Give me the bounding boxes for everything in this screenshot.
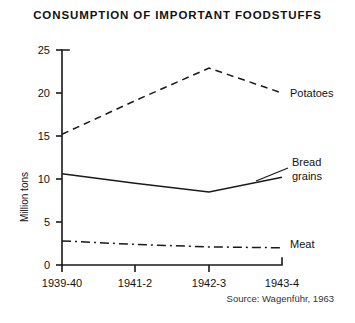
x-tick-label-1942-3: 1942-3: [192, 277, 226, 289]
x-axis-line: [62, 258, 282, 265]
source-note: Source: Wagenführ, 1963: [227, 293, 334, 304]
x-tick-label-1939-40: 1939-40: [42, 277, 82, 289]
x-tick-labels: 1939-40 1941-2 1942-3 1943-4: [42, 277, 299, 289]
y-axis-line: [62, 50, 69, 265]
y-tick-label-5: 5: [44, 216, 50, 228]
y-tick-label-0: 0: [44, 259, 50, 271]
y-tick-label-15: 15: [38, 130, 50, 142]
x-tick-label-1941-2: 1941-2: [118, 277, 152, 289]
y-tick-label-25: 25: [38, 44, 50, 56]
series-label-bread-line1: Bread: [292, 156, 321, 168]
y-tick-label-10: 10: [38, 173, 50, 185]
series-line-bread-grains: [62, 174, 282, 192]
y-axis-title: Million tons: [19, 172, 30, 222]
line-chart-plot: 25 20 15 10 5 0 1939-40 1941-2 1942-3 19…: [0, 0, 355, 323]
series-line-potatoes: [62, 68, 282, 134]
y-tick-labels: 25 20 15 10 5 0: [38, 44, 50, 271]
axes-group: [56, 50, 282, 272]
series-label-bread-line2: grains: [292, 170, 322, 182]
chart-figure: CONSUMPTION OF IMPORTANT FOODSTUFFS 25 2…: [0, 0, 355, 323]
series-label-potatoes: Potatoes: [290, 87, 334, 99]
x-tick-label-1943-4: 1943-4: [265, 277, 299, 289]
series-line-meat: [62, 241, 282, 248]
y-tick-label-20: 20: [38, 87, 50, 99]
series-label-meat: Meat: [290, 238, 314, 250]
